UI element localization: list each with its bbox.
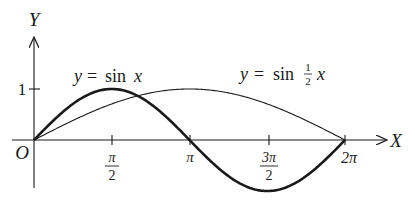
svg-text:=: = <box>87 66 97 86</box>
svg-text:sin: sin <box>105 66 126 86</box>
origin-label: O <box>15 142 29 163</box>
y-axis-label: Y <box>29 9 42 30</box>
svg-text:2: 2 <box>305 75 311 87</box>
x-axis-label: X <box>389 130 403 151</box>
x-tick-label-pi-over-2: π 2 <box>105 150 119 183</box>
svg-text:y: y <box>72 66 82 86</box>
label-sin-x: y = sin x <box>72 66 142 86</box>
svg-text:sin: sin <box>273 64 294 84</box>
sine-curves-diagram: Y X O 1 π 2 π 3π 2 2π y = sin x y = sin … <box>0 0 415 201</box>
svg-text:2: 2 <box>109 168 116 183</box>
svg-text:x: x <box>316 64 325 84</box>
x-tick-label-2pi: 2π <box>341 149 358 166</box>
label-sin-half-x: y = sin 1 2 x <box>238 61 325 87</box>
svg-text:1: 1 <box>305 61 311 73</box>
svg-text:π: π <box>108 150 116 165</box>
y-tick-label-1: 1 <box>18 80 27 99</box>
x-tick-label-3pi-over-2: 3π 2 <box>260 150 278 183</box>
svg-text:x: x <box>133 66 142 86</box>
svg-text:y: y <box>238 64 248 84</box>
svg-text:3π: 3π <box>261 150 277 165</box>
curve-sin-half-x <box>34 89 345 140</box>
svg-text:=: = <box>254 64 264 84</box>
svg-text:2: 2 <box>266 168 273 183</box>
x-tick-label-pi: π <box>186 149 194 165</box>
